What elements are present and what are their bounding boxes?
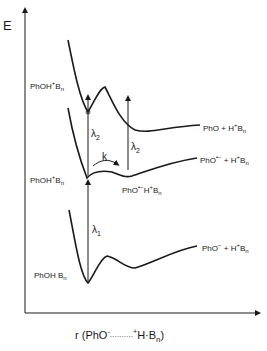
lambda2-left-label: λ2 (91, 128, 100, 141)
middle-left-label: PhOH+Bn (30, 174, 64, 186)
lower-left-label: PhOH Bn (34, 272, 67, 281)
lambda2-right-label: λ2 (131, 141, 140, 154)
y-axis-label: E (3, 18, 12, 33)
upper-left-label: PhOH+Bn (30, 80, 64, 92)
lambda1-label: λ1 (92, 224, 101, 237)
rate-k-label: k (102, 151, 107, 162)
middle-well-label: PhO•−H+Bn (122, 184, 162, 196)
x-axis-label: r (PhO-··········+H·Bn) (75, 328, 164, 344)
middle-right-label: PhO•− + H+Bn (200, 154, 249, 166)
upper-right-label: PhO + H+Bn (203, 122, 246, 134)
lower-right-label: PhO− + H+Bn (202, 242, 249, 254)
